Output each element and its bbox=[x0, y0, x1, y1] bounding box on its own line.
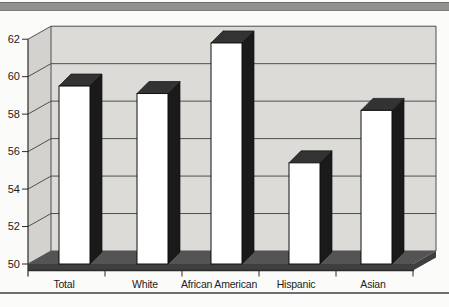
bar-front-face bbox=[137, 94, 168, 264]
y-axis-label-62: 62 bbox=[8, 33, 20, 45]
bar-side-face bbox=[242, 31, 254, 264]
bar-front-face bbox=[289, 163, 320, 264]
page-footer-rule bbox=[0, 292, 449, 294]
bar-side-face bbox=[168, 82, 180, 264]
y-axis-label-56: 56 bbox=[8, 145, 20, 157]
x-axis-label-hispanic: Hispanic bbox=[277, 278, 316, 290]
x-axis-label-white: White bbox=[132, 278, 158, 290]
bar-hispanic bbox=[289, 151, 332, 264]
bar-front-face bbox=[211, 43, 242, 264]
y-axis-label-52: 52 bbox=[8, 220, 20, 232]
bar-african-american bbox=[211, 31, 254, 264]
x-axis-label-african-american: African American bbox=[181, 278, 258, 290]
chart-floor-front bbox=[28, 264, 413, 271]
bar-total bbox=[59, 74, 102, 264]
bar-asian bbox=[361, 98, 404, 264]
bar-chart-figure: 50525456586062TotalWhiteAfrican American… bbox=[0, 0, 449, 307]
bar-side-face bbox=[320, 151, 332, 264]
x-axis-label-total: Total bbox=[53, 278, 74, 290]
y-axis-label-60: 60 bbox=[8, 70, 20, 82]
3d-bar-chart: 50525456586062TotalWhiteAfrican American… bbox=[0, 0, 449, 307]
bar-front-face bbox=[59, 86, 90, 264]
bar-side-face bbox=[392, 98, 404, 264]
bar-front-face bbox=[361, 110, 392, 264]
y-axis-label-54: 54 bbox=[8, 183, 20, 195]
x-axis-label-asian: Asian bbox=[360, 278, 386, 290]
bar-white bbox=[137, 82, 180, 264]
y-axis-label-50: 50 bbox=[8, 258, 20, 270]
bar-side-face bbox=[90, 74, 102, 264]
y-axis-label-58: 58 bbox=[8, 108, 20, 120]
